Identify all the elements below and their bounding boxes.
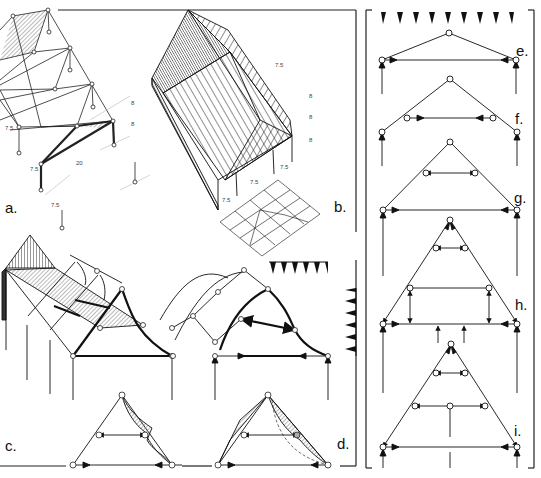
- load-indicator-side: [345, 288, 356, 356]
- panel-c-frame-iso: [2, 235, 175, 400]
- panel-label-a: a.: [5, 200, 18, 215]
- truss-f: [379, 76, 520, 166]
- panel-c-moment-diagram: [70, 392, 182, 468]
- truss-h: [380, 217, 520, 393]
- dim-b-3: 7.5: [280, 164, 288, 170]
- load-indicator-top: [381, 12, 514, 24]
- panel-d-moment-diagram: [215, 392, 331, 468]
- panel-frames: [0, 10, 534, 468]
- dim-a-3: 20: [76, 160, 83, 166]
- dim-a-2: 7.5: [30, 166, 38, 172]
- panel-label-h: h.: [515, 297, 528, 312]
- panel-label-g: g.: [514, 190, 527, 205]
- panel-d-arched-frames: [160, 268, 331, 401]
- dim-a-5: 8: [131, 100, 134, 106]
- structural-diagram: [0, 0, 541, 478]
- dim-b-6: 8: [309, 137, 312, 143]
- dim-b-4: 8: [309, 93, 312, 99]
- truss-g: [380, 139, 520, 276]
- dim-b-5: 8: [309, 114, 312, 120]
- panel-label-i: i.: [514, 423, 522, 438]
- dim-a-4: 7.5: [51, 202, 59, 208]
- load-indicator-middle: [269, 262, 328, 274]
- panel-label-f: f.: [515, 111, 523, 126]
- panel-label-e: e.: [516, 43, 529, 58]
- dim-a-1: 7.5: [5, 125, 13, 131]
- panel-b-hipped-roof: [152, 10, 320, 256]
- dim-a-6: 8: [131, 121, 134, 127]
- panel-label-b: b.: [334, 199, 347, 214]
- truss-e: [379, 30, 519, 94]
- panel-a-space-frame: [0, 8, 150, 230]
- dim-b-2: 7.5: [250, 179, 258, 185]
- panel-label-c: c.: [5, 438, 17, 453]
- dim-b-7: 7.5: [275, 62, 283, 68]
- panel-label-d: d.: [337, 436, 350, 451]
- truss-i: [380, 341, 520, 468]
- dim-b-1: 7.5: [222, 197, 230, 203]
